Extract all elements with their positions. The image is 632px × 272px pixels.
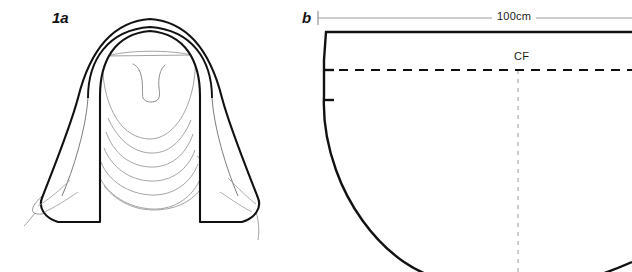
veiled-head-drawing [0, 0, 300, 272]
dimension-label-100cm: 100cm [492, 10, 536, 22]
figure-container: 1a [0, 0, 632, 272]
pattern-piece-drawing [300, 0, 632, 272]
panel-veiled-head: 1a [0, 0, 300, 272]
pattern-outline-left [324, 32, 632, 272]
face-oval [103, 55, 196, 139]
panel-pattern-diagram: b 100cm CF [300, 0, 632, 272]
cf-fold-label: CF [511, 50, 532, 62]
pattern-outline-right-hem [530, 262, 632, 272]
